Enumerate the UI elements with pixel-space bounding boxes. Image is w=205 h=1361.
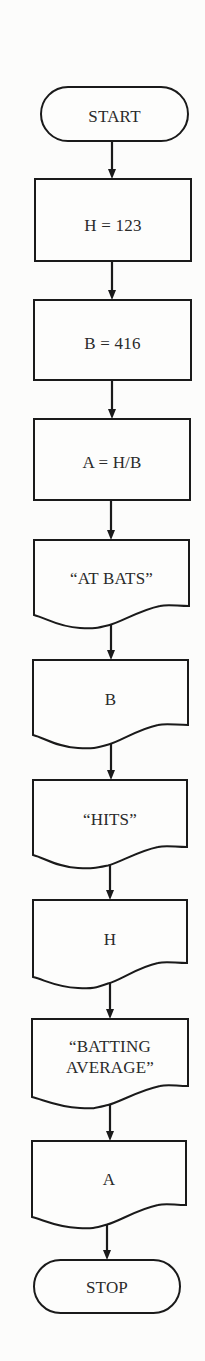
flowchart-node-assign-b: B = 416: [34, 300, 191, 380]
arrowhead-icon: [108, 290, 116, 300]
arrowhead-icon: [103, 1250, 111, 1260]
connector-arrow: [106, 1102, 114, 1141]
arrowhead-icon: [108, 409, 116, 419]
node-label: “BATTING: [69, 1037, 151, 1056]
node-label: “AT BATS”: [70, 569, 153, 588]
flowchart-node-print-at-bats: “AT BATS”: [34, 540, 189, 628]
connector-arrow: [108, 141, 116, 179]
arrowhead-icon: [106, 1131, 114, 1141]
connector-arrow: [107, 500, 115, 540]
flowchart-node-compute-a: A = H/B: [34, 419, 190, 500]
arrowhead-icon: [106, 1009, 114, 1019]
node-label: H: [104, 930, 116, 949]
flowchart-node-print-batting-average: “BATTINGAVERAGE”: [32, 1019, 188, 1108]
arrowhead-icon: [107, 530, 115, 540]
node-label: B = 416: [84, 334, 140, 353]
node-label: A = H/B: [82, 453, 141, 472]
flowchart-node-start: START: [41, 87, 188, 141]
node-label: H = 123: [84, 216, 141, 235]
arrowhead-icon: [107, 770, 115, 780]
flowchart-node-stop: STOP: [34, 1260, 180, 1313]
flowchart-node-assign-h: H = 123: [35, 179, 191, 261]
connector-arrow: [108, 380, 116, 419]
flowchart-node-print-h: H: [33, 900, 187, 988]
flowchart-canvas: STARTH = 123B = 416A = H/B“AT BATS”B“HIT…: [0, 0, 205, 1361]
connector-arrow: [107, 741, 115, 780]
arrowhead-icon: [106, 890, 114, 900]
connector-arrow: [107, 622, 115, 660]
connector-arrow: [106, 862, 114, 900]
node-label: START: [88, 107, 141, 126]
arrowhead-icon: [107, 650, 115, 660]
connector-arrow: [103, 1222, 111, 1260]
flowchart-node-print-a: A: [32, 1141, 186, 1228]
flowchart-node-print-hits: “HITS”: [33, 780, 187, 868]
flowchart-node-print-b: B: [33, 660, 188, 748]
node-label: AVERAGE”: [66, 1058, 154, 1077]
node-label: STOP: [86, 1278, 128, 1297]
node-label: A: [103, 1170, 116, 1189]
node-label: B: [105, 690, 117, 709]
node-label: “HITS”: [83, 810, 137, 829]
arrowhead-icon: [108, 169, 116, 179]
connector-arrow: [108, 261, 116, 300]
connector-arrow: [106, 982, 114, 1019]
